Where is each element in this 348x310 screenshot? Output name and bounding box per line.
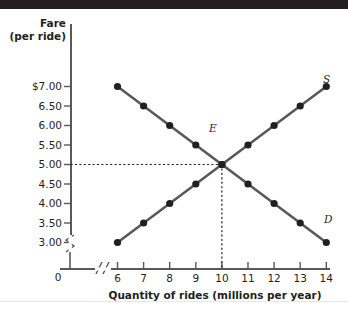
supply-demand-chart: Fare (per ride) 0 Quantity of rides (mil… [0,9,348,301]
y-tick-label: 6.00 [39,119,62,131]
x-tick-label: 8 [166,272,173,284]
x-tick-label: 12 [267,272,280,284]
x-tick-label: 13 [294,272,307,284]
data-point [114,83,121,90]
y-tick-labels: $7.006.506.005.505.004.504.003.503.00 [32,80,62,248]
data-point [218,161,225,168]
data-point [166,200,173,207]
data-point [140,102,147,109]
x-tick-label: 7 [140,272,147,284]
y-tick-label: 5.00 [39,158,62,170]
data-point [323,239,330,246]
y-tick-label: 4.00 [39,197,62,209]
data-point [271,122,278,129]
top-dark-band [0,0,348,9]
y-tick-marks [64,87,71,243]
x-tick-label: 14 [320,272,334,284]
axis-break-marks [66,235,111,274]
y-tick-label: $7.00 [32,80,62,92]
x-tick-label: 6 [114,272,121,284]
data-point [271,200,278,207]
data-point [192,141,199,148]
x-tick-label: 11 [241,272,254,284]
y-tick-label: 3.00 [39,236,62,248]
y-tick-label: 5.50 [39,139,62,151]
data-point [166,122,173,129]
x-tick-labels: 67891011121314 [114,272,333,284]
data-point [244,180,251,187]
chart-canvas: $7.006.506.005.505.004.504.003.503.00 67… [0,9,348,301]
x-tick-label: 10 [215,272,228,284]
x-tick-label: 9 [192,272,199,284]
data-point [323,83,330,90]
y-tick-label: 3.50 [39,217,62,229]
data-point [297,219,304,226]
data-point [140,219,147,226]
bottom-band [0,301,348,310]
y-tick-label: 6.50 [39,100,62,112]
data-point [244,141,251,148]
data-point [297,102,304,109]
data-point [192,180,199,187]
data-point [114,239,121,246]
y-tick-label: 4.50 [39,178,62,190]
